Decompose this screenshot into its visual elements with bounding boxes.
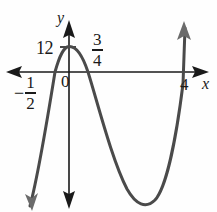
origin-label: 0 (61, 73, 70, 90)
root-mid-label: 3 4 (92, 31, 103, 69)
y-axis-label: y (57, 10, 64, 26)
root-mid-denominator: 4 (92, 52, 103, 69)
root-right-label: 4 (180, 76, 189, 93)
x-axis-label: x (202, 76, 209, 92)
root-left-numerator: 1 (25, 74, 36, 91)
minus-sign: − (14, 84, 24, 102)
cubic-curve (30, 28, 185, 206)
y-intercept-label: 12 (36, 39, 53, 57)
root-left-fraction: 1 2 (25, 74, 36, 112)
root-left-denominator: 2 (25, 95, 36, 112)
graph-figure: 12 0 4 x y 3 4 − 1 2 (0, 0, 217, 212)
root-mid-numerator: 3 (92, 31, 103, 48)
root-left-label: − 1 2 (14, 74, 36, 112)
